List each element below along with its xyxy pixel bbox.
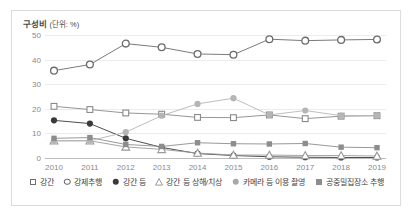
chart-legend: 강간강제추행강간 등강간 등 상해/치상카메라 등 이용 촬영공중밀집장소 추행 (11, 176, 401, 187)
data-point-circle-filled-dark (87, 120, 93, 126)
data-point-circle-filled-gray (159, 113, 165, 119)
series-강간 등 상해/치상 (50, 137, 381, 159)
legend-label: 공중밀집장소 추행 (326, 176, 384, 187)
data-point-square-filled-gray (303, 141, 308, 146)
x-axis-tick-label: 2016 (260, 163, 278, 172)
x-axis-tick-label: 2014 (189, 163, 207, 172)
x-axis-tick-label: 2019 (368, 163, 386, 172)
data-point-circle-open (86, 61, 93, 68)
legend-label: 카메라 등 이용 촬영 (243, 176, 306, 187)
data-point-circle-filled-gray (266, 112, 272, 118)
series-layer (45, 35, 386, 158)
data-point-square-open (123, 110, 129, 116)
data-point-square-filled-gray (87, 135, 92, 140)
cropped-text-ghost: · · · · · · · · · · · · · · · · · · · · (95, 0, 230, 4)
legend-marker-circle-filled-gray-icon (231, 177, 240, 186)
data-point-square-open (51, 103, 57, 109)
x-axis-tick-label: 2012 (117, 163, 135, 172)
data-point-square-open (195, 115, 201, 121)
data-point-circle-filled-gray (230, 95, 236, 101)
legend-marker-square-filled-gray-icon (314, 177, 323, 186)
legend-item[interactable]: 공중밀집장소 추행 (314, 176, 384, 187)
axis-unit-suffix: (단위: %) (49, 20, 79, 29)
legend-label: 강간 (40, 176, 54, 187)
x-axis-tick-label: 2011 (81, 163, 98, 172)
plot-area: 01020304050 2010201120122013201420152016… (45, 35, 386, 158)
data-point-circle-filled-dark (51, 117, 57, 123)
legend-marker-square-open-icon (28, 177, 37, 186)
legend-item[interactable]: 강간 등 상해/치상 (155, 176, 222, 187)
axis-unit-label: 구성비 (단위: %) (23, 17, 79, 29)
series-강제추행 (51, 36, 381, 74)
y-axis-tick-label: 40 (32, 55, 41, 64)
data-point-square-filled-gray (267, 141, 272, 146)
x-axis-tick-label: 2015 (225, 163, 243, 172)
data-point-circle-open (338, 37, 345, 44)
series-line (54, 98, 377, 141)
data-point-circle-filled-gray (302, 107, 308, 113)
data-point-circle-filled-dark (123, 135, 129, 141)
data-point-square-open (87, 107, 93, 113)
data-point-square-filled-gray (159, 144, 164, 149)
x-axis-tick-label: 2017 (296, 163, 314, 172)
data-point-circle-open (374, 36, 381, 43)
data-point-circle-open (122, 40, 129, 47)
legend-item[interactable]: 강간 등 (111, 176, 146, 187)
y-axis-tick-label: 20 (32, 104, 41, 113)
data-point-square-filled-gray (374, 145, 379, 150)
y-axis-tick-label: 10 (32, 129, 41, 138)
legend-item[interactable]: 카메라 등 이용 촬영 (231, 176, 305, 187)
data-point-circle-open (230, 51, 237, 58)
data-point-circle-filled-gray (374, 113, 380, 119)
legend-marker-circle-filled-dark-icon (111, 177, 120, 186)
cropped-top-strip: · · · · · · · · · · · · · · · · · · · · (0, 0, 411, 6)
y-axis-tick-label: 50 (32, 31, 41, 40)
data-point-square-open (302, 116, 308, 122)
series-line (54, 39, 377, 70)
axis-unit-title: 구성비 (23, 19, 47, 29)
series-line (54, 120, 377, 157)
data-point-circle-open (51, 67, 58, 74)
gridline (45, 158, 386, 159)
data-point-square-filled-gray (195, 140, 200, 145)
data-point-circle-open (302, 37, 309, 44)
x-axis-tick-label: 2018 (332, 163, 350, 172)
data-point-circle-open (266, 36, 273, 43)
data-point-square-filled-gray (338, 144, 343, 149)
legend-label: 강제추행 (74, 176, 102, 187)
data-point-circle-open (194, 51, 201, 58)
data-point-circle-filled-gray (338, 113, 344, 119)
x-axis-tick-label: 2013 (153, 163, 171, 172)
legend-item[interactable]: 강제추행 (63, 176, 103, 187)
data-point-square-open (231, 115, 237, 121)
data-point-circle-filled-gray (194, 101, 200, 107)
series-강간 (51, 103, 380, 121)
data-point-square-filled-gray (51, 136, 56, 141)
y-axis-tick-label: 0 (37, 154, 41, 163)
legend-marker-triangle-open-icon (155, 177, 164, 186)
series-line (54, 106, 377, 118)
x-axis-tick-label: 2010 (45, 163, 63, 172)
data-point-square-filled-gray (123, 142, 128, 147)
legend-label: 강간 등 (123, 176, 146, 187)
data-point-square-filled-gray (231, 141, 236, 146)
data-point-circle-open (158, 44, 165, 51)
legend-label: 강간 등 상해/치상 (166, 176, 222, 187)
data-point-circle-filled-gray (123, 129, 129, 135)
series-카메라 등 이용 촬영 (51, 95, 380, 144)
chart-screenshot: · · · · · · · · · · · · · · · · · · · · … (0, 0, 411, 214)
y-axis-tick-label: 30 (32, 80, 41, 89)
legend-item[interactable]: 강간 (28, 176, 54, 187)
legend-marker-circle-open-icon (63, 177, 72, 186)
